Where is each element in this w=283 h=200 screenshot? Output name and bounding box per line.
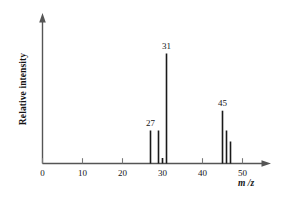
x-axis — [43, 160, 272, 167]
x-tick-label: 20 — [110, 168, 136, 178]
y-axis — [39, 13, 46, 164]
x-tick-label: 10 — [70, 168, 96, 178]
x-tick-label: 50 — [230, 168, 256, 178]
peak-label: 31 — [154, 41, 180, 51]
spectrum-bars — [151, 54, 231, 164]
y-axis-label: Relative intensity — [18, 29, 28, 149]
x-axis-label: m /z — [238, 178, 254, 188]
x-tick-label: 40 — [190, 168, 216, 178]
peak-label: 45 — [210, 98, 236, 108]
mass-spectrum-figure: Relative intensity m /z 01020304050 2731… — [0, 0, 283, 200]
x-tick-label: 0 — [30, 168, 56, 178]
peak-label: 27 — [138, 118, 164, 128]
x-tick-label: 30 — [150, 168, 176, 178]
x-axis-ticks — [43, 158, 243, 163]
